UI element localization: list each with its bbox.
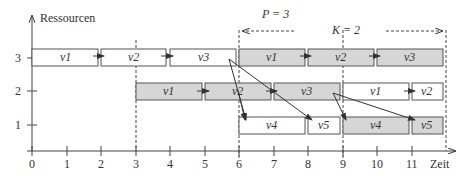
y-tick-1: 1 (15, 118, 21, 132)
task-label: v3 (198, 50, 209, 64)
x-axis-label: Zeit (430, 157, 450, 171)
x-tick-2: 2 (98, 157, 104, 171)
x-tick-7: 7 (271, 157, 277, 171)
task-label: v4 (266, 118, 277, 132)
task-label: v2 (421, 84, 432, 98)
task-label: v5 (421, 118, 432, 132)
x-tick-5: 5 (202, 157, 208, 171)
x-tick-3: 3 (133, 157, 139, 171)
x-tick-8: 8 (305, 157, 311, 171)
task-label: v4 (370, 118, 381, 132)
task-label: v2 (128, 50, 139, 64)
task-label: v2 (335, 50, 346, 64)
y-tick-2: 2 (15, 84, 21, 98)
x-tick-9: 9 (340, 157, 346, 171)
task-label: v5 (318, 118, 329, 132)
x-tick-4: 4 (167, 157, 173, 171)
task-label: v3 (404, 50, 415, 64)
x-tick-11: 11 (406, 157, 418, 171)
task-label: v1 (163, 84, 174, 98)
x-tick-10: 10 (371, 157, 383, 171)
k-label: K = 2 (331, 23, 360, 37)
x-tick-1: 1 (64, 157, 70, 171)
task-label: v1 (266, 50, 277, 64)
row-2-tasks: v1 v2 v3 v1 v2 (136, 83, 443, 100)
y-tick-3: 3 (15, 51, 21, 65)
x-ticks: 0 1 2 3 4 5 6 7 8 9 10 11 (29, 146, 418, 171)
x-tick-0: 0 (29, 157, 35, 171)
x-tick-6: 6 (236, 157, 242, 171)
row-3-tasks: v1 v2 v3 v1 v2 v3 (32, 49, 443, 66)
task-label: v3 (301, 84, 312, 98)
period-label: P = 3 (261, 7, 289, 21)
task-label: v1 (60, 50, 71, 64)
y-axis-label: Ressourcen (40, 11, 95, 25)
task-label: v1 (370, 84, 381, 98)
period-annotation: P = 3 K = 2 (243, 7, 442, 37)
schedule-diagram: P = 3 K = 2 Ressourcen Zeit 3 2 1 0 1 2 … (0, 0, 468, 179)
